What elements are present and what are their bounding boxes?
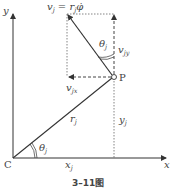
figure-caption: 3–11图 <box>72 178 104 188</box>
theta-top-label: θj <box>99 38 107 51</box>
yj-label: yj <box>118 114 127 127</box>
vjx-label: vjx <box>66 82 78 95</box>
y-axis-label: y <box>2 5 9 16</box>
kinematics-diagram: y x C P vj = rjφ̇ θj vjy vjx rj yj <box>0 0 173 189</box>
point-p <box>112 75 117 80</box>
radius-line <box>13 78 112 158</box>
x-axis-label: x <box>164 159 170 170</box>
theta-bottom-label: θj <box>39 142 47 155</box>
point-p-label: P <box>119 72 126 83</box>
xj-label: xj <box>65 159 73 172</box>
velocity-label: vj = rjφ̇ <box>47 1 83 14</box>
rj-label: rj <box>70 113 77 126</box>
vjy-label: vjy <box>118 44 130 57</box>
origin-label: C <box>4 159 12 170</box>
